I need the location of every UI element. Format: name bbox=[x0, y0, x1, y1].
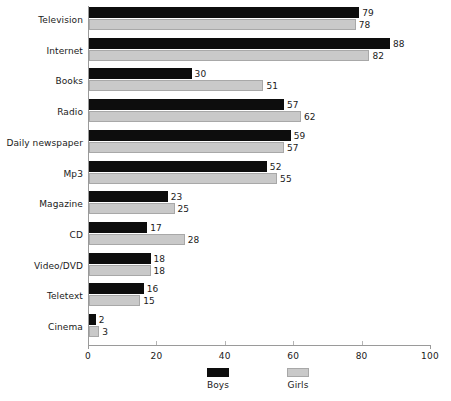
bar-value-label: 57 bbox=[287, 143, 299, 153]
legend-swatch-icon bbox=[287, 368, 309, 377]
bar-group: Cinema23 bbox=[0, 314, 451, 345]
bar-value-label: 18 bbox=[154, 254, 166, 264]
bar-value-label: 30 bbox=[195, 69, 207, 79]
bar-group: CD1728 bbox=[0, 222, 451, 253]
legend-label: Girls bbox=[258, 380, 338, 390]
bar-value-label: 78 bbox=[359, 20, 371, 30]
category-label: Daily newspaper bbox=[0, 138, 83, 148]
bar-girls bbox=[89, 173, 277, 184]
bar-boys bbox=[89, 7, 359, 18]
bar-group: Magazine2325 bbox=[0, 191, 451, 222]
bar-group: Television7978 bbox=[0, 7, 451, 38]
bar-value-label: 57 bbox=[287, 100, 299, 110]
bar-girls bbox=[89, 80, 263, 91]
bar-boys bbox=[89, 99, 284, 110]
legend-item-girls[interactable]: Girls bbox=[258, 368, 338, 390]
x-axis-tick bbox=[430, 345, 431, 349]
x-axis-tick bbox=[88, 345, 89, 349]
legend-swatch-icon bbox=[207, 368, 229, 377]
bar-value-label: 3 bbox=[102, 327, 108, 337]
bar-value-label: 28 bbox=[188, 235, 200, 245]
bar-value-label: 88 bbox=[393, 39, 405, 49]
x-axis-tick-label: 60 bbox=[273, 351, 313, 361]
bar-value-label: 59 bbox=[294, 131, 306, 141]
bar-group: Mp35255 bbox=[0, 161, 451, 192]
x-axis-line bbox=[88, 345, 431, 346]
bar-boys bbox=[89, 283, 144, 294]
x-axis-tick-label: 0 bbox=[68, 351, 108, 361]
bar-boys bbox=[89, 68, 192, 79]
bar-value-label: 18 bbox=[154, 266, 166, 276]
bar-boys bbox=[89, 314, 96, 325]
legend-label: Boys bbox=[178, 380, 258, 390]
category-label: Video/DVD bbox=[0, 261, 83, 271]
bar-girls bbox=[89, 326, 99, 337]
category-label: Teletext bbox=[0, 291, 83, 301]
bar-group: Video/DVD1818 bbox=[0, 253, 451, 284]
category-label: Internet bbox=[0, 46, 83, 56]
bar-girls bbox=[89, 50, 369, 61]
bar-value-label: 62 bbox=[304, 112, 316, 122]
category-label: Radio bbox=[0, 107, 83, 117]
bar-girls bbox=[89, 203, 175, 214]
bar-boys bbox=[89, 38, 390, 49]
category-label: CD bbox=[0, 230, 83, 240]
bar-boys bbox=[89, 253, 151, 264]
bar-girls bbox=[89, 142, 284, 153]
bar-value-label: 23 bbox=[171, 192, 183, 202]
bar-value-label: 51 bbox=[266, 81, 278, 91]
bar-group: Books3051 bbox=[0, 68, 451, 99]
bar-girls bbox=[89, 295, 140, 306]
legend-item-boys[interactable]: Boys bbox=[178, 368, 258, 390]
bar-value-label: 82 bbox=[372, 51, 384, 61]
bar-group: Internet8882 bbox=[0, 38, 451, 69]
x-axis-tick-label: 20 bbox=[136, 351, 176, 361]
bar-value-label: 15 bbox=[143, 296, 155, 306]
x-axis-tick-label: 80 bbox=[342, 351, 382, 361]
bar-value-label: 16 bbox=[147, 284, 159, 294]
bar-value-label: 17 bbox=[150, 223, 162, 233]
bar-boys bbox=[89, 130, 291, 141]
category-label: Cinema bbox=[0, 322, 83, 332]
bar-value-label: 52 bbox=[270, 162, 282, 172]
x-axis-tick-label: 40 bbox=[205, 351, 245, 361]
bar-girls bbox=[89, 111, 301, 122]
category-label: Books bbox=[0, 76, 83, 86]
bar-value-label: 25 bbox=[178, 204, 190, 214]
bar-group: Radio5762 bbox=[0, 99, 451, 130]
bar-boys bbox=[89, 222, 147, 233]
bar-group: Teletext1615 bbox=[0, 283, 451, 314]
category-label: Mp3 bbox=[0, 169, 83, 179]
bar-value-label: 79 bbox=[362, 8, 374, 18]
bar-group: Daily newspaper5957 bbox=[0, 130, 451, 161]
bar-boys bbox=[89, 161, 267, 172]
bar-value-label: 55 bbox=[280, 174, 292, 184]
category-label: Television bbox=[0, 15, 83, 25]
chart-legend: BoysGirls bbox=[0, 368, 451, 401]
category-label: Magazine bbox=[0, 199, 83, 209]
bar-boys bbox=[89, 191, 168, 202]
x-axis-tick-label: 100 bbox=[410, 351, 450, 361]
bar-girls bbox=[89, 265, 151, 276]
bar-value-label: 2 bbox=[99, 315, 105, 325]
bar-girls bbox=[89, 19, 356, 30]
bar-girls bbox=[89, 234, 185, 245]
bar-chart: 020406080100 Television7978Internet8882B… bbox=[0, 0, 451, 401]
